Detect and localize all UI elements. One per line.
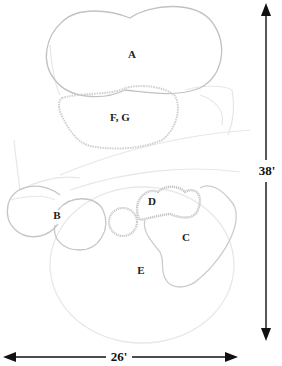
faint-sketch-lines bbox=[10, 45, 250, 200]
link-circle-outline bbox=[109, 208, 137, 236]
arrowhead-up-icon bbox=[261, 3, 271, 16]
arrowhead-down-icon bbox=[261, 328, 271, 341]
arrowhead-left-icon bbox=[3, 352, 16, 362]
label-e: E bbox=[137, 264, 144, 276]
planting-diagram: A F, G B D C E 38' 26' bbox=[0, 0, 282, 366]
arrowhead-right-icon bbox=[225, 352, 238, 362]
label-d: D bbox=[148, 195, 156, 207]
width-dimension-label: 26' bbox=[111, 349, 128, 364]
height-dimension-label: 38' bbox=[259, 163, 276, 178]
label-c: C bbox=[182, 231, 190, 243]
label-a: A bbox=[128, 48, 136, 60]
label-fg: F, G bbox=[110, 111, 130, 123]
region-c-outline bbox=[144, 186, 236, 287]
label-b: B bbox=[53, 209, 61, 221]
region-d-outline bbox=[137, 187, 200, 220]
